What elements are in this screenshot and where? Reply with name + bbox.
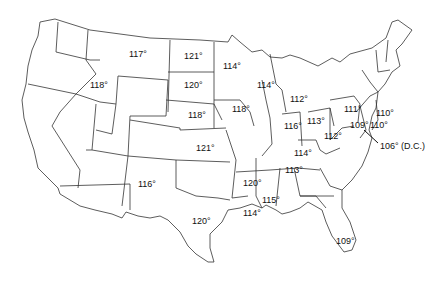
label-dc: 106° (D.C.): [380, 142, 425, 151]
label-kansas: 121°: [196, 144, 215, 153]
label-maryland: 109°: [350, 121, 369, 130]
label-south-dakota: 120°: [184, 81, 203, 90]
us-state-outline-map: [0, 0, 438, 294]
label-michigan: 112°: [290, 95, 308, 104]
label-mississippi: 115°: [262, 196, 280, 205]
label-wisconsin: 114°: [257, 81, 275, 90]
label-pennsylvania: 111°: [344, 105, 361, 114]
label-delaware: 110°: [370, 121, 388, 130]
label-ohio: 113°: [307, 117, 325, 126]
label-florida: 109°: [336, 237, 355, 246]
label-montana: 117°: [129, 50, 147, 59]
label-new-mexico: 116°: [138, 180, 156, 189]
label-tennessee: 113°: [285, 166, 303, 175]
label-texas: 120°: [192, 217, 211, 226]
label-minnesota: 114°: [223, 62, 241, 71]
label-kentucky: 114°: [294, 149, 312, 158]
label-north-dakota: 121°: [184, 52, 203, 61]
label-nebraska: 118°: [188, 111, 206, 120]
label-west-virginia: 112°: [324, 132, 342, 141]
label-louisiana: 114°: [243, 209, 261, 218]
us-map: 117° 121° 114° 118° 120° 114° 118° 118° …: [0, 0, 438, 294]
label-arkansas: 120°: [243, 179, 262, 188]
label-new-jersey: 110°: [376, 109, 394, 118]
label-iowa: 118°: [232, 105, 250, 114]
label-idaho: 118°: [90, 81, 108, 90]
label-illinois: 116°: [284, 122, 302, 131]
us-outline: [22, 19, 412, 262]
